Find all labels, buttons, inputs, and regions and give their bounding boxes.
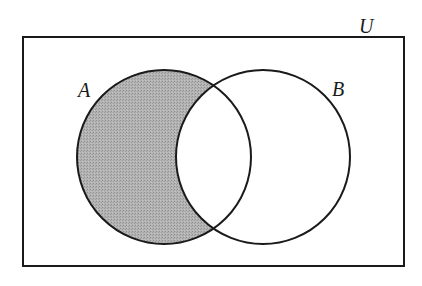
set-a-label: A bbox=[76, 79, 91, 101]
set-b-label: B bbox=[332, 78, 344, 100]
venn-diagram: U A B bbox=[0, 0, 422, 286]
universe-label: U bbox=[359, 15, 375, 37]
